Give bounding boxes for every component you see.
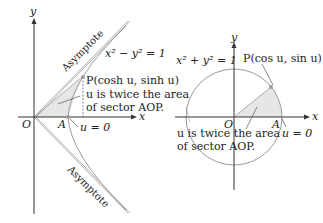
x-axis-label: x xyxy=(312,110,319,123)
y-axis-label: y xyxy=(29,5,37,18)
p-pointer xyxy=(262,64,273,85)
y-axis-label: y xyxy=(230,31,238,44)
point-p xyxy=(81,75,85,79)
circle-equation: x² + y² = 1 xyxy=(176,54,237,67)
u0-pointer xyxy=(70,119,78,127)
x-axis-arrow-icon xyxy=(131,115,137,120)
note-line2: of sector AOP. xyxy=(86,101,164,114)
hyperbola-figure: y x O A Asymptote Asymptote x² − y² = 1 … xyxy=(18,5,190,214)
y-axis-arrow-icon xyxy=(32,18,37,24)
point-p-label: P(cosh u, sinh u) xyxy=(86,74,179,87)
hyperbola-equation: x² − y² = 1 xyxy=(105,47,166,60)
equation-pointer xyxy=(186,107,190,122)
u-zero-label: u = 0 xyxy=(282,127,312,140)
u-zero-label: u = 0 xyxy=(80,121,110,134)
diagram-canvas: y x O A Asymptote Asymptote x² − y² = 1 … xyxy=(0,0,323,223)
origin-label: O xyxy=(22,118,31,131)
u0-pointer xyxy=(282,119,286,127)
x-axis-arrow-icon xyxy=(304,115,310,120)
point-p-label: P(cos u, sin u) xyxy=(243,52,322,65)
note-line1: u is twice the area xyxy=(86,88,190,101)
note-line2: of sector AOP. xyxy=(177,140,255,153)
note-line1: u is twice the area xyxy=(177,127,281,140)
point-a xyxy=(66,115,70,119)
point-p xyxy=(269,85,273,89)
circle-figure: y x O A x² + y² = 1 P(cos u, sin u) u is… xyxy=(175,31,322,190)
point-a-label: A xyxy=(57,118,66,131)
